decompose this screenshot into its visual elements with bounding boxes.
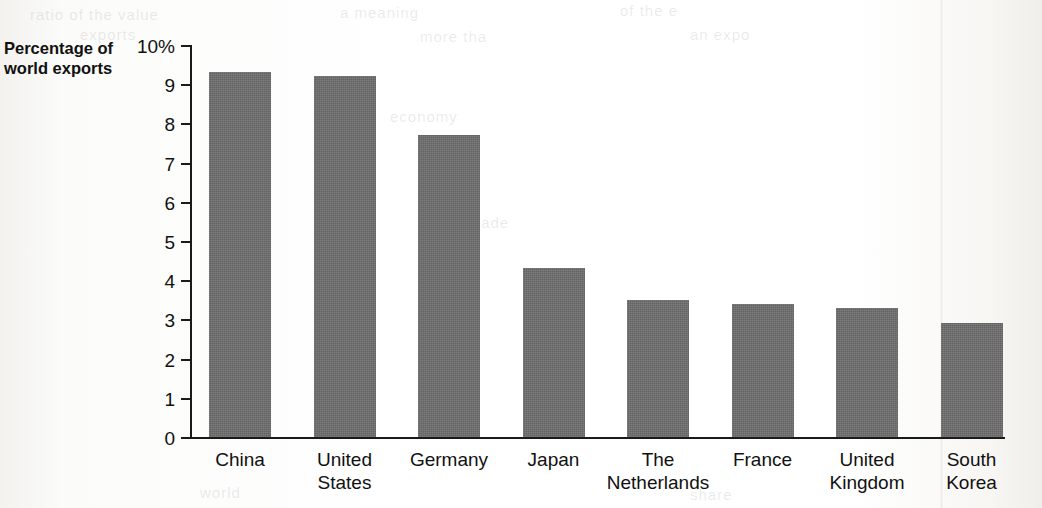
y-tick: 10% bbox=[181, 45, 190, 47]
bar bbox=[418, 135, 480, 437]
y-tick: 2 bbox=[181, 359, 190, 361]
y-tick: 5 bbox=[181, 241, 190, 243]
x-axis-label-line: Korea bbox=[897, 471, 1042, 494]
y-tick: 1 bbox=[181, 398, 190, 400]
bar bbox=[523, 268, 585, 437]
bar bbox=[836, 308, 898, 437]
bleedthrough-text: an expo bbox=[690, 26, 750, 43]
y-tick-label: 0 bbox=[164, 429, 175, 448]
bleedthrough-text: world bbox=[200, 484, 241, 501]
x-axis-label-line: States bbox=[270, 471, 420, 494]
x-axis-label-line: South bbox=[897, 448, 1042, 471]
y-tick-label: 4 bbox=[164, 272, 175, 291]
y-axis-title-line2: world exports bbox=[4, 58, 154, 78]
bar bbox=[314, 76, 376, 437]
y-tick-label: 10% bbox=[137, 37, 175, 56]
y-tick-label: 2 bbox=[164, 350, 175, 369]
plot-area: 10%9876543210 bbox=[190, 45, 1005, 437]
chart-page: ratio of the value a meaning of the e ex… bbox=[0, 0, 1042, 508]
bar bbox=[732, 304, 794, 437]
y-tick-label: 7 bbox=[164, 154, 175, 173]
y-tick-label: 1 bbox=[164, 389, 175, 408]
y-tick: 4 bbox=[181, 280, 190, 282]
y-tick-label: 8 bbox=[164, 115, 175, 134]
y-axis-title: Percentage of world exports bbox=[4, 38, 154, 78]
y-axis-title-line1: Percentage of bbox=[4, 39, 113, 57]
y-tick: 3 bbox=[181, 319, 190, 321]
bleedthrough-text: of the e bbox=[620, 2, 678, 19]
x-axis-label: SouthKorea bbox=[897, 448, 1042, 494]
x-axis-line bbox=[190, 437, 1005, 439]
bar bbox=[209, 72, 271, 437]
y-tick-label: 9 bbox=[164, 76, 175, 95]
y-tick-label: 5 bbox=[164, 233, 175, 252]
y-tick: 8 bbox=[181, 123, 190, 125]
bleedthrough-text: ratio of the value bbox=[30, 6, 159, 23]
y-tick: 7 bbox=[181, 163, 190, 165]
bar bbox=[627, 300, 689, 437]
bleedthrough-text: more tha bbox=[420, 28, 487, 45]
y-tick: 9 bbox=[181, 84, 190, 86]
y-tick-label: 3 bbox=[164, 311, 175, 330]
bar bbox=[941, 323, 1003, 437]
y-tick: 6 bbox=[181, 202, 190, 204]
y-tick-label: 6 bbox=[164, 193, 175, 212]
y-tick: 0 bbox=[181, 437, 190, 439]
x-axis-label-line: Netherlands bbox=[583, 471, 733, 494]
y-axis-line bbox=[190, 45, 192, 437]
bleedthrough-text: a meaning bbox=[340, 4, 419, 21]
